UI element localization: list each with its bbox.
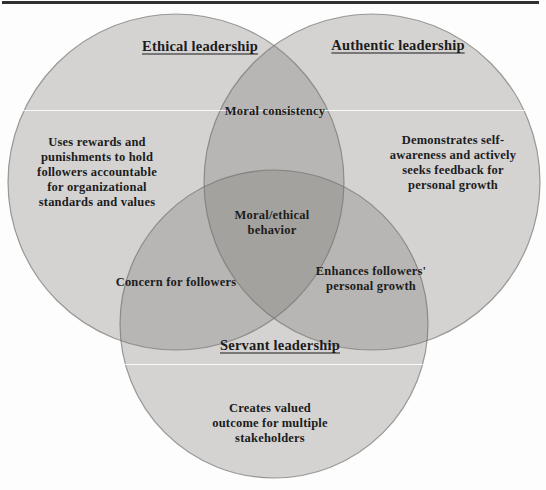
ethical-leadership-title: Ethical leadership	[142, 39, 258, 54]
servant-leadership-title: Servant leadership	[220, 338, 340, 353]
scan-artifact-line-lower	[0, 364, 546, 365]
overlap-label-concern-for-followers: Concern for followers	[116, 275, 237, 290]
authentic-leadership-description: Demonstrates self- awareness and activel…	[390, 133, 516, 193]
servant-leadership-description: Creates valued outcome for multiple stak…	[212, 401, 328, 446]
venn-diagram-page: Ethical leadership Authentic leadership …	[0, 0, 546, 490]
authentic-leadership-title: Authentic leadership	[331, 38, 464, 53]
overlap-label-enhances-followers-growth: Enhances followers' personal growth	[316, 264, 426, 294]
top-divider-rule	[2, 1, 539, 4]
overlap-label-moral-consistency: Moral consistency	[225, 104, 325, 119]
overlap-label-moral-ethical-behavior: Moral/ethical behavior	[235, 208, 310, 238]
ethical-leadership-description: Uses rewards and punishments to hold fol…	[37, 135, 157, 210]
